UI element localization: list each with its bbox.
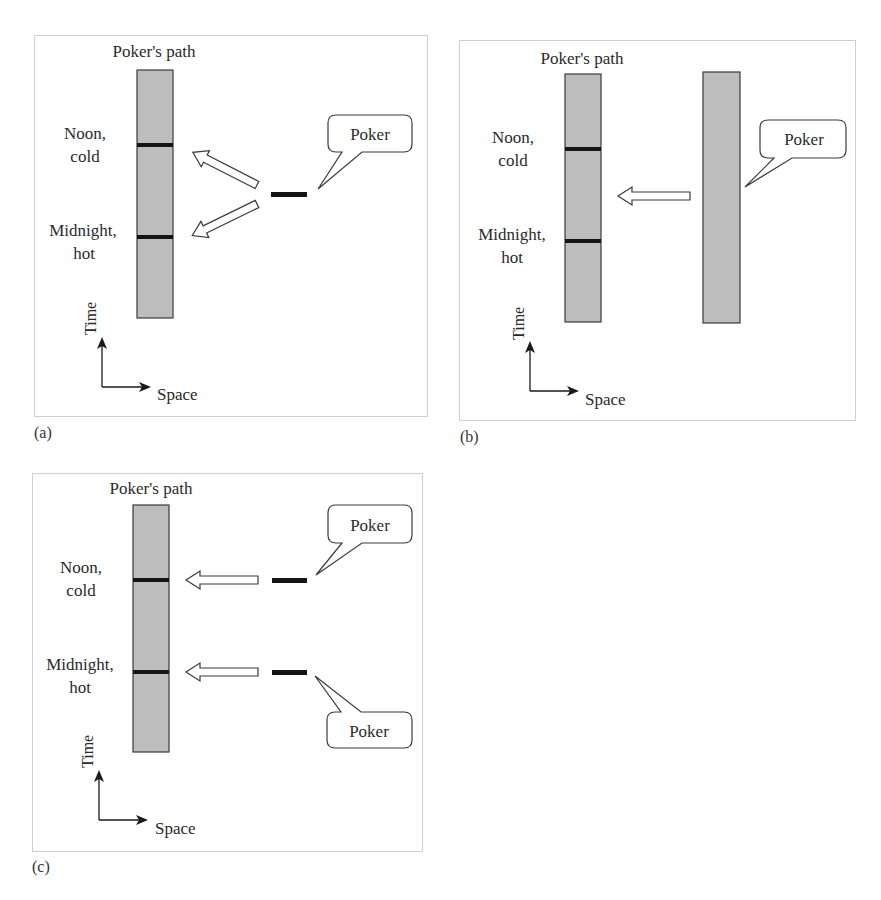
poker-stage-dash-noon [272,578,307,583]
midnight-label-line1: Midnight, [46,655,114,674]
time-axis-label: Time [79,735,96,768]
panel-c-drawing: Poker's path Noon, cold Midnight, hot Po… [0,0,881,900]
poker-path-bar [133,505,169,752]
poker-stage-dash-midnight [272,670,307,675]
noon-label-line1: Noon, [60,558,102,577]
bubble-text: Poker [349,722,389,741]
speech-bubble-bottom: Poker [315,676,412,748]
midnight-label-line2: hot [69,678,91,697]
panel-label-c: (c) [32,858,50,876]
hollow-arrow-left-icon [186,663,258,681]
space-axis-label: Space [155,819,196,838]
midnight-event-line [133,670,169,674]
noon-event-line [133,578,169,582]
bubble-text: Poker [350,516,390,535]
speech-bubble-top: Poker [316,505,412,575]
hollow-arrow-left-icon [186,571,258,589]
noon-label-line2: cold [66,581,96,600]
path-title: Poker's path [110,479,193,498]
